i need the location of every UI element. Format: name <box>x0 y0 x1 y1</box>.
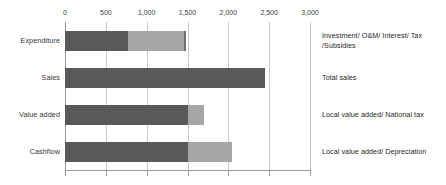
annotation-column: Investment/ O&M/ Interest/ Tax /Subsidie… <box>322 22 446 170</box>
bar-segment <box>188 105 204 125</box>
bar-group <box>65 142 310 162</box>
x-tick-label: 1,500 <box>179 8 197 17</box>
bar-segment <box>65 105 188 125</box>
x-tick-label: 2,000 <box>220 8 238 17</box>
x-axis-tick-labels: 05001,0001,5002,0002,5003,000 <box>0 8 446 20</box>
bar-group <box>65 68 310 88</box>
x-tick-mark <box>269 170 270 176</box>
plot-area <box>65 22 310 170</box>
y-axis-category-label: Cashflow <box>0 147 60 156</box>
bar-segment <box>188 142 233 162</box>
x-tick-label: 0 <box>63 8 67 17</box>
x-tick-label: 2,500 <box>260 8 278 17</box>
bar-segment <box>65 31 128 51</box>
x-tick-label: 500 <box>100 8 112 17</box>
bar-group <box>65 105 310 125</box>
gridline <box>310 22 311 170</box>
y-axis-category-label: Sales <box>0 73 60 82</box>
x-tick-mark <box>188 170 189 176</box>
bar-annotation: Local value added/ National tax <box>322 110 446 120</box>
bar-segment <box>184 31 186 51</box>
x-tick-label: 3,000 <box>301 8 319 17</box>
x-tick-mark <box>65 170 66 176</box>
y-axis-category-label: Expenditure <box>0 36 60 45</box>
x-tick-label: 1,000 <box>138 8 156 17</box>
x-tick-mark <box>147 170 148 176</box>
y-axis-category-label: Value added <box>0 110 60 119</box>
bar-segment <box>128 31 184 51</box>
bar-segment <box>65 68 265 88</box>
x-tick-mark <box>228 170 229 176</box>
bar-segment <box>65 142 188 162</box>
x-tick-mark <box>310 170 311 176</box>
bar-annotation: Local value added/ Depreciation <box>322 147 446 157</box>
x-tick-mark <box>106 170 107 176</box>
bar-group <box>65 31 310 51</box>
y-axis-category-labels: ExpenditureSalesValue addedCashflow <box>0 22 60 170</box>
bar-annotation: Total sales <box>322 73 446 83</box>
bar-chart: 05001,0001,5002,0002,5003,000 Expenditur… <box>0 0 446 185</box>
bar-annotation: Investment/ O&M/ Interest/ Tax /Subsidie… <box>322 31 446 50</box>
